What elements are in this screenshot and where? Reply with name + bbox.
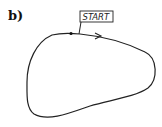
start-point — [69, 32, 72, 35]
start-label: START — [83, 12, 111, 22]
closed-loop-curve — [27, 33, 155, 117]
start-leader-line — [79, 22, 81, 34]
closed-curve-diagram: START — [0, 0, 162, 127]
